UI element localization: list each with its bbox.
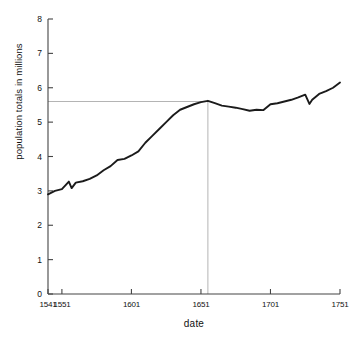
- plot-area: [0, 0, 357, 340]
- x-tick-label: 1751: [320, 300, 357, 309]
- x-tick-label: 1701: [250, 300, 290, 309]
- y-tick-label: 1: [28, 255, 42, 265]
- x-tick-label: 1601: [111, 300, 151, 309]
- y-tick-label: 0: [28, 289, 42, 299]
- y-tick-label: 8: [28, 14, 42, 24]
- y-tick-label: 2: [28, 220, 42, 230]
- x-tick-label: 1551: [42, 300, 82, 309]
- y-tick-label: 5: [28, 117, 42, 127]
- y-tick-label: 3: [28, 186, 42, 196]
- x-tick-label: 1651: [181, 300, 221, 309]
- y-tick-label: 6: [28, 83, 42, 93]
- reference-guides: [48, 102, 208, 295]
- tick-marks: [48, 19, 340, 294]
- population-line-chart: population totals in millions date 01234…: [0, 0, 357, 340]
- y-axis-title: population totals in millions: [13, 32, 24, 172]
- data-series-line: [48, 83, 340, 195]
- y-tick-label: 7: [28, 48, 42, 58]
- y-tick-label: 4: [28, 152, 42, 162]
- x-axis-title: date: [48, 318, 340, 329]
- axis-lines: [48, 19, 340, 294]
